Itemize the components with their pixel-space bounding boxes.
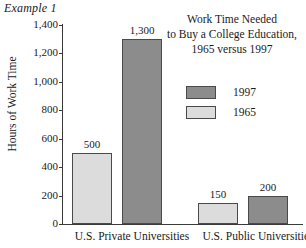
y-axis-tick-mark	[59, 224, 62, 225]
bar-1965-public	[198, 203, 238, 224]
legend-swatch-1997	[186, 86, 216, 99]
y-axis-tick-label: 1,200	[14, 47, 58, 58]
chart-title: Work Time Neededto Buy a College Educati…	[158, 12, 306, 57]
x-axis-line	[62, 224, 303, 225]
bar-1965-private	[72, 153, 112, 224]
legend-label: 1997	[233, 85, 256, 99]
y-axis-tick-label: 600	[14, 133, 58, 144]
bar-1997-public	[248, 196, 288, 224]
y-axis-tick-label: 200	[14, 190, 58, 201]
bar-value-label: 500	[60, 139, 124, 150]
bar-1997-private	[122, 39, 162, 224]
y-axis-tick-label: 1,400	[14, 19, 58, 30]
y-axis-tick-label: 800	[14, 104, 58, 115]
y-axis-tick-label: 400	[14, 161, 58, 172]
example-label: Example 1	[4, 1, 57, 16]
x-axis-category-label: U.S. Public Universities	[183, 230, 306, 243]
y-axis-tick-label: 0	[14, 218, 58, 229]
chart-title-line: 1965 versus 1997	[158, 42, 306, 57]
chart-figure: Example 1 Hours of Work Time 02004006008…	[0, 0, 306, 248]
y-axis-tick-label: 1,000	[14, 76, 58, 87]
bar-value-label: 200	[236, 182, 300, 193]
chart-title-line: to Buy a College Education,	[158, 27, 306, 42]
chart-title-line: Work Time Needed	[158, 12, 306, 27]
legend-label: 1965	[233, 105, 256, 119]
legend-swatch-1965	[186, 106, 216, 119]
